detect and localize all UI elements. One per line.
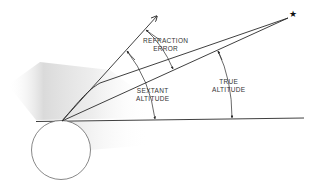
refraction-error-line1: REFRACTION	[143, 37, 188, 45]
true-altitude-arc-start	[218, 51, 222, 60]
sextant-altitude-label: SEXTANT ALTITUDE	[136, 87, 169, 103]
refraction-error-line2: ERROR	[143, 45, 188, 53]
true-altitude-line2: ALTITUDE	[212, 86, 245, 94]
star-icon: ★	[289, 10, 297, 18]
sextant-altitude-line1: SEXTANT	[136, 87, 169, 95]
refraction-error-label: REFRACTION ERROR	[143, 37, 188, 53]
sextant-altitude-arc-start	[127, 51, 135, 60]
sextant-altitude-line2: ALTITUDE	[136, 95, 169, 103]
true-altitude-label: TRUE ALTITUDE	[212, 78, 245, 94]
earth-circle	[32, 121, 91, 180]
true-altitude-line1: TRUE	[212, 78, 245, 86]
